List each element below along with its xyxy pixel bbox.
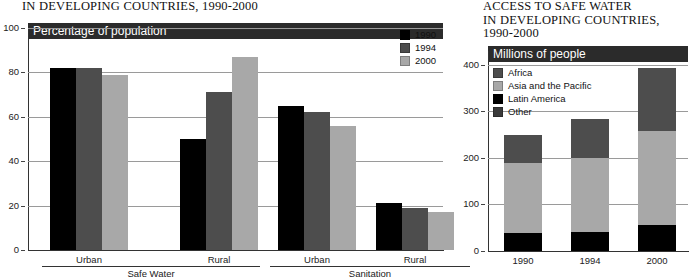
axis-tick	[21, 72, 25, 73]
y-axis-label: 0	[474, 246, 479, 255]
y-axis-label: 300	[463, 106, 479, 115]
x-axis-sub-label: Rural	[189, 254, 249, 265]
left-chart-baseline	[28, 250, 444, 251]
bar-1990-1	[180, 139, 206, 250]
right-chart-panel: ACCESS TO SAFE WATERIN DEVELOPING COUNTR…	[470, 0, 695, 280]
y-axis-label: 400	[463, 60, 479, 69]
y-axis-label: 40	[8, 156, 19, 165]
left-chart-legend-label: 1994	[415, 43, 436, 53]
bar-1990-3	[376, 203, 402, 250]
stack-segment-Latin-America-2000	[638, 225, 676, 252]
stack-segment-Other-1994	[571, 119, 609, 158]
x-axis-label-2000: 2000	[632, 255, 682, 266]
group-rule	[270, 266, 470, 267]
stack-segment-Other-1990	[504, 135, 542, 163]
stack-segment-Asia-and-the-Pacific-1990	[504, 163, 542, 233]
bar-1990-2	[278, 106, 304, 250]
right-chart-legend-item-0[interactable]: Africa	[493, 68, 613, 78]
y-axis-label: 100	[463, 199, 479, 208]
stack-segment-Latin-America-1990	[504, 233, 542, 251]
left-chart-legend-label: 2000	[415, 56, 436, 66]
left-chart-legend: 199019942000	[400, 30, 462, 69]
right-chart-legend-item-2[interactable]: Latin America	[493, 94, 613, 104]
left-chart-plot-area	[28, 28, 443, 250]
bar-1994-2	[304, 112, 330, 250]
y-axis-label: 200	[463, 153, 479, 162]
legend-swatch-icon	[493, 68, 503, 78]
right-chart-title-line-3: 1990-2000	[483, 27, 688, 41]
legend-swatch-icon	[400, 43, 410, 53]
legend-swatch-icon	[400, 56, 410, 66]
x-axis-sub-label: Urban	[59, 254, 119, 265]
bar-2000-3	[428, 212, 454, 250]
axis-tick	[21, 117, 25, 118]
gridline	[488, 65, 688, 66]
axis-tick	[481, 204, 485, 205]
right-chart-legend-item-3[interactable]: Other	[493, 107, 613, 117]
x-axis-sub-label: Rural	[385, 254, 445, 265]
legend-swatch-icon	[493, 81, 503, 91]
gridline	[28, 28, 443, 29]
y-axis-label: 80	[8, 67, 19, 76]
right-chart-legend-label: Other	[508, 107, 532, 117]
bar-1994-1	[206, 92, 232, 250]
right-chart-legend-item-1[interactable]: Asia and the Pacific	[493, 81, 613, 91]
left-chart-legend-item-1[interactable]: 1994	[400, 43, 462, 53]
left-chart-panel: IN DEVELOPING COUNTRIES, 1990-2000 Perce…	[0, 0, 470, 280]
legend-swatch-icon	[400, 30, 410, 40]
axis-tick	[21, 161, 25, 162]
axis-tick	[481, 251, 485, 252]
y-axis-label: 60	[8, 112, 19, 121]
right-chart-baseline	[488, 251, 689, 252]
axis-tick	[481, 111, 485, 112]
x-axis-label-1990: 1990	[498, 255, 548, 266]
x-axis-group-label: Sanitation	[320, 268, 420, 279]
x-axis-label-1994: 1994	[565, 255, 615, 266]
axis-tick	[481, 65, 485, 66]
right-chart-legend-label: Asia and the Pacific	[508, 81, 591, 91]
right-chart-title-line-1: ACCESS TO SAFE WATER	[483, 0, 688, 14]
axis-tick	[21, 250, 25, 251]
bar-1994-3	[402, 208, 428, 250]
y-axis-label: 20	[8, 201, 19, 210]
right-chart-legend-label: Latin America	[508, 94, 566, 104]
x-axis-group-label: Safe Water	[101, 268, 201, 279]
x-axis-sub-label: Urban	[287, 254, 347, 265]
stack-segment-Asia-and-the-Pacific-1994	[571, 158, 609, 232]
stack-segment-Other-2000	[638, 68, 676, 131]
left-chart-legend-item-2[interactable]: 2000	[400, 56, 462, 66]
left-chart-legend-label: 1990	[415, 30, 436, 40]
y-axis-label: 100	[3, 23, 19, 32]
left-chart-title: IN DEVELOPING COUNTRIES, 1990-2000	[22, 0, 452, 14]
left-chart-legend-item-0[interactable]: 1990	[400, 30, 462, 40]
legend-swatch-icon	[493, 94, 503, 104]
right-chart-legend: AfricaAsia and the PacificLatin AmericaO…	[493, 68, 613, 120]
right-chart-y-axis: 0100200300400	[467, 51, 485, 251]
bar-2000-2	[330, 126, 356, 250]
bar-2000-0	[102, 75, 128, 250]
axis-tick	[21, 28, 25, 29]
bar-2000-1	[232, 57, 258, 250]
legend-swatch-icon	[493, 107, 503, 117]
bar-1994-0	[76, 68, 102, 250]
left-chart-y-axis: 020406080100	[0, 28, 25, 250]
right-chart-title-line-2: IN DEVELOPING COUNTRIES,	[483, 14, 688, 28]
axis-tick	[481, 158, 485, 159]
stack-segment-Asia-and-the-Pacific-2000	[638, 131, 676, 224]
right-chart-legend-label: Africa	[508, 68, 532, 78]
group-rule	[42, 266, 260, 267]
right-chart-title: ACCESS TO SAFE WATERIN DEVELOPING COUNTR…	[483, 0, 688, 41]
bar-1990-0	[50, 68, 76, 250]
stack-segment-Latin-America-1994	[571, 232, 609, 251]
y-axis-label: 0	[14, 245, 19, 254]
axis-tick	[21, 206, 25, 207]
